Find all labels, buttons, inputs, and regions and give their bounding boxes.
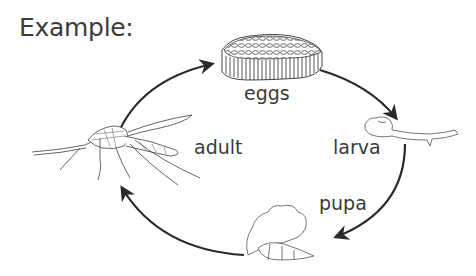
stage-label-larva: larva [333, 136, 381, 158]
pupa-illustration [247, 205, 314, 260]
stage-label-eggs: eggs [244, 82, 290, 104]
stage-label-adult: adult [194, 136, 242, 158]
eggs-illustration [222, 34, 322, 80]
stage-label-pupa: pupa [319, 192, 367, 214]
arrow-pupa-to-adult [122, 188, 244, 255]
adult-mosquito-illustration [32, 115, 200, 185]
arrow-eggs-to-larva [320, 70, 396, 118]
